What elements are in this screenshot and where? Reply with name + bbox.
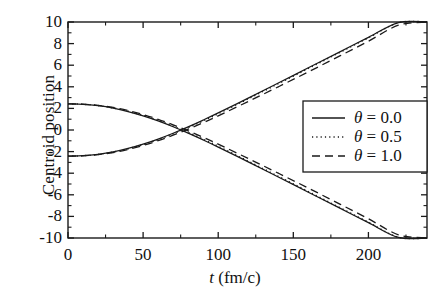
legend-entry-label: θ = 0.5 [354,127,402,147]
legend-theta-value: = 1.0 [362,146,401,165]
y-tick-label: 10 [18,13,62,30]
legend-theta-value: = 0.5 [362,127,401,146]
x-tick-label: 150 [263,246,323,263]
legend-entry-label: θ = 0.0 [354,108,402,128]
y-axis-label: Centroid position [39,35,59,235]
x-tick-label: 50 [113,246,173,263]
legend-theta-value: = 0.0 [362,108,401,127]
x-tick-label: 100 [188,246,248,263]
x-tick-label: 0 [38,246,98,263]
x-axis-label: t (fm/c) [170,268,300,288]
x-axis-label-symbol: t [209,268,214,287]
figure-container: 1086420-2-4-6-8-10 050100150200 Centroid… [0,0,446,298]
legend-entry-label: θ = 1.0 [354,146,402,166]
x-tick-label: 200 [338,246,398,263]
x-axis-label-unit: (fm/c) [218,268,260,287]
